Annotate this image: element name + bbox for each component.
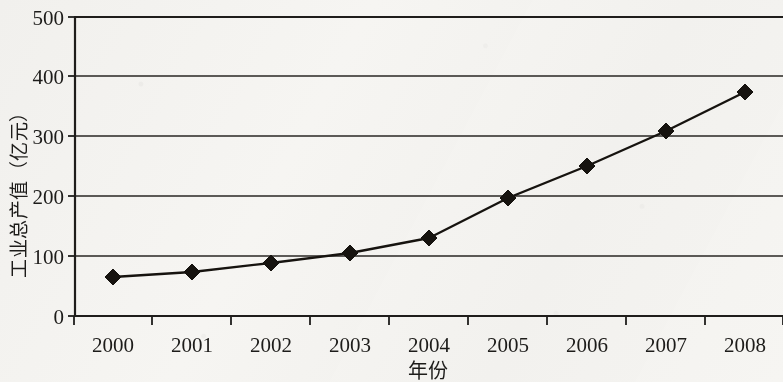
line-chart-figure: 500 400 300 200 100 0 2000 2001 2002 200…	[0, 0, 783, 382]
y-axis-title: 工业总产值（亿元）	[8, 102, 30, 278]
x-tick-label-2000: 2000	[92, 333, 134, 357]
y-tick-label-100: 100	[33, 245, 65, 269]
x-tick-label-2008: 2008	[724, 333, 766, 357]
y-tick-label-0: 0	[54, 305, 65, 329]
x-tick-label-2004: 2004	[408, 333, 451, 357]
x-axis-title: 年份	[408, 359, 448, 382]
x-tick-label-2001: 2001	[171, 333, 213, 357]
y-tick-label-400: 400	[33, 65, 65, 89]
x-tick-labels: 2000 2001 2002 2003 2004 2005 2006 2007 …	[92, 333, 766, 357]
y-tick-label-300: 300	[33, 125, 65, 149]
chart-canvas: 500 400 300 200 100 0 2000 2001 2002 200…	[0, 0, 783, 382]
y-tick-label-200: 200	[33, 185, 65, 209]
x-tick-label-2003: 2003	[329, 333, 371, 357]
x-tick-label-2007: 2007	[645, 333, 687, 357]
x-tick-label-2006: 2006	[566, 333, 608, 357]
chart-background	[0, 0, 783, 382]
y-tick-label-500: 500	[33, 6, 65, 30]
x-tick-label-2005: 2005	[487, 333, 529, 357]
x-tick-label-2002: 2002	[250, 333, 292, 357]
